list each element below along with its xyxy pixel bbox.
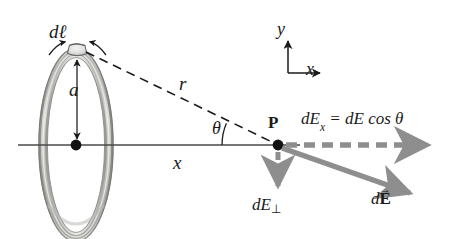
axes-orientation-indicator — [288, 41, 320, 73]
dl-element-patch — [68, 44, 87, 56]
ring-charge-field-diagram: dℓ a r θ P x y x dEx = dE cos θ dE⊥ d→E — [0, 0, 456, 239]
theta-angle-arc — [222, 123, 226, 145]
ring-center-marker — [71, 140, 82, 151]
distance-r-label: r — [179, 74, 186, 93]
dE-vector-label: d→E — [371, 190, 391, 207]
axes-indicator-y-label: y — [277, 20, 285, 38]
dl-bracket-arrow-right — [90, 42, 106, 55]
radius-a-label: a — [69, 80, 79, 99]
dEx-equation-rhs: = dE cos θ — [325, 109, 403, 128]
dl-bracket-arrow-left — [49, 42, 65, 55]
dl-charge-element — [68, 44, 87, 56]
theta-label: θ — [212, 119, 221, 137]
dE-perpendicular-subscript: ⊥ — [271, 202, 281, 216]
dE-perpendicular-label: dE⊥ — [252, 196, 281, 213]
dl-label: dℓ — [49, 22, 66, 41]
point-p-label: P — [268, 114, 278, 131]
dE-vector-arrow-accent: → — [380, 185, 391, 196]
dE-vector-d: d — [371, 189, 380, 208]
dEx-equation-subscript: x — [320, 121, 325, 134]
distance-r-dashed-line — [86, 52, 272, 142]
x-axis-label: x — [173, 153, 181, 172]
axes-indicator-x-label: x — [306, 60, 314, 78]
dE-perpendicular-main: dE — [252, 195, 271, 214]
dEx-equation-label: dEx = dE cos θ — [301, 110, 403, 131]
dEx-equation-lhs: dE — [301, 109, 320, 128]
